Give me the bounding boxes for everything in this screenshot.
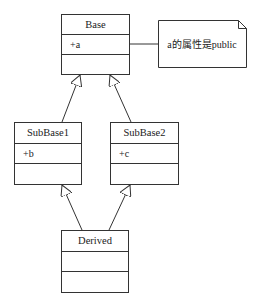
generalization-derived-subbase2 — [109, 185, 130, 230]
class-base[interactable]: Base +a — [61, 14, 130, 75]
class-subbase2[interactable]: SubBase2 +c — [110, 122, 179, 185]
generalization-subbase1-base — [62, 75, 80, 122]
class-name: SubBase1 — [15, 123, 81, 143]
generalization-subbase2-base — [110, 75, 131, 122]
class-derived[interactable]: Derived — [61, 230, 129, 293]
operations-compartment — [62, 54, 129, 74]
attribute: +c — [119, 148, 129, 159]
class-name: SubBase2 — [111, 123, 178, 143]
attributes-compartment: +b — [15, 143, 81, 164]
note-text: a的属性是public — [167, 36, 236, 51]
note: a的属性是public — [158, 20, 246, 67]
attribute: +a — [70, 39, 80, 50]
generalization-derived-subbase1 — [62, 185, 82, 230]
class-name: Derived — [62, 231, 128, 251]
attributes-compartment — [62, 251, 128, 272]
operations-compartment — [62, 271, 128, 292]
operations-compartment — [15, 163, 81, 184]
attributes-compartment: +c — [111, 143, 178, 164]
operations-compartment — [111, 163, 178, 184]
attribute: +b — [23, 148, 34, 159]
class-subbase1[interactable]: SubBase1 +b — [14, 122, 82, 185]
class-name: Base — [62, 15, 129, 34]
attributes-compartment: +a — [62, 34, 129, 54]
